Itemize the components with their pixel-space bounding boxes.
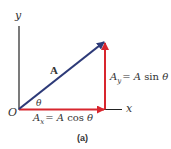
angle-theta-label: θ [36,98,42,108]
y-comp-eq: = [122,71,134,82]
figure-caption: (a) [77,133,88,143]
x-component-equation: Ax= A cos θ [32,112,93,126]
x-comp-sub: x [40,118,44,126]
x-comp-lhs: A [32,112,40,123]
y-component-equation: Ay= A sin θ [109,71,168,85]
origin-label: O [8,106,17,119]
vector-A-label: A [50,64,58,76]
vector-A-arrow [19,42,104,109]
y-comp-lhs: A [109,71,117,82]
x-comp-A: A [56,112,64,123]
y-axis-label: y [14,9,22,22]
x-comp-eq: = [45,112,57,123]
x-axis-label: x [126,102,133,115]
y-comp-A: A [133,71,141,82]
x-comp-theta: θ [87,112,93,123]
y-comp-theta: θ [162,71,168,82]
x-comp-fn: cos [64,112,87,123]
y-comp-fn: sin [141,71,162,82]
vector-components-diagram: y x O A θ Ay= A sin θ Ax= A cos θ (a) [0,0,171,149]
